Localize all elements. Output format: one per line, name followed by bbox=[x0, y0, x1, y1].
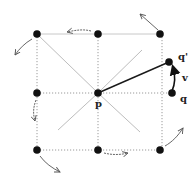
edge-p-qprime bbox=[98, 62, 169, 93]
nodes bbox=[33, 30, 176, 154]
node-ml bbox=[33, 89, 41, 97]
node-q-prime bbox=[165, 58, 173, 66]
arrow-bl bbox=[40, 156, 60, 172]
node-p bbox=[94, 89, 102, 97]
arrow-bc bbox=[104, 153, 128, 155]
arrow-ml bbox=[34, 100, 36, 121]
diagonal-lines bbox=[37, 34, 142, 132]
arrow-tc bbox=[67, 30, 91, 32]
arrow-tl bbox=[15, 39, 32, 55]
grid-lines bbox=[37, 34, 172, 150]
node-q bbox=[168, 89, 176, 97]
node-tc bbox=[94, 30, 102, 38]
arrow-tr bbox=[140, 14, 158, 30]
grid-diagram: p q q' v bbox=[0, 0, 196, 183]
label-q: q bbox=[180, 93, 187, 104]
label-v: v bbox=[181, 72, 189, 83]
vector-v-arrow bbox=[172, 67, 175, 91]
label-p: p bbox=[95, 98, 102, 109]
node-bl bbox=[33, 146, 41, 154]
node-tl bbox=[33, 30, 41, 38]
label-q-prime: q' bbox=[178, 51, 188, 62]
arrow-br bbox=[165, 128, 183, 146]
node-br bbox=[156, 146, 164, 154]
node-bc bbox=[94, 146, 102, 154]
node-tr bbox=[156, 30, 164, 38]
